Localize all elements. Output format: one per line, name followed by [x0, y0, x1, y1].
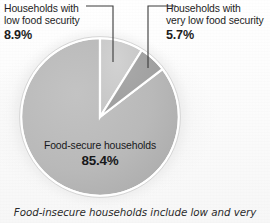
- callout-low-food-security: Households with low food security 8.9%: [4, 3, 80, 43]
- callout-very-low-food-security: Households with very low food security 5…: [166, 3, 264, 43]
- callout-very-low-percent: 5.7%: [166, 28, 264, 43]
- pie-chart-figure: Households with low food security 8.9% H…: [0, 0, 270, 223]
- slice-label-food-secure-percent: 85.4%: [22, 153, 178, 168]
- callout-low-percent: 8.9%: [4, 28, 80, 43]
- callout-low-line2: low food security: [4, 15, 80, 27]
- callout-low-line1: Households with: [4, 3, 80, 15]
- callout-very-low-line1: Households with: [166, 3, 264, 15]
- slice-label-food-secure: Food-secure households 85.4%: [22, 140, 178, 168]
- slice-label-food-secure-text: Food-secure households: [22, 140, 178, 151]
- callout-very-low-line2: very low food security: [166, 15, 264, 27]
- figure-caption: Food-insecure households include low and…: [0, 206, 270, 218]
